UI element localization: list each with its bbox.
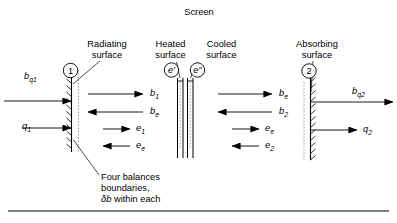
flow-label-bq2-sub: q2 — [357, 91, 365, 98]
marker-surface-2: 2 — [302, 66, 316, 77]
marker-surface-1: 1 — [64, 66, 78, 77]
flow-label-left-1: be — [150, 106, 159, 118]
marker-screen-heated: e′ — [165, 65, 179, 76]
marker-surface-2-text: 2 — [306, 66, 311, 76]
radiating-surface-label: Radiating surface — [76, 39, 138, 60]
flow-label-right-0-sub: e — [284, 93, 288, 100]
cooled-surface-line2: surface — [206, 50, 237, 60]
cooled-surface-line1: Cooled — [207, 39, 236, 49]
flow-label-left-0-sub: 1 — [155, 93, 159, 100]
flow-label-left-2-sub: 1 — [141, 128, 145, 135]
radiating-surface-line1: Radiating — [87, 39, 126, 49]
absorbing-surface-line1: Absorbing — [296, 39, 338, 49]
diagram-canvas — [0, 0, 397, 223]
flow-label-left-0: b1 — [150, 88, 159, 100]
left-gap-arrows — [88, 94, 143, 146]
flow-label-left-3-sub: e — [141, 145, 145, 152]
marker-screen-cooled-text: e″ — [193, 65, 201, 75]
flow-label-q2: q2 — [363, 124, 372, 136]
absorbing-surface-line2: surface — [302, 50, 333, 60]
flow-label-right-1: b2 — [279, 106, 288, 118]
flow-label-right-2: ee — [265, 123, 274, 135]
inlet-outlet-arrows — [4, 101, 393, 130]
balances-caption-line3-suffix: within each — [111, 194, 160, 204]
flow-label-q1-sub: 1 — [27, 126, 31, 133]
flow-label-bq2: bq2 — [352, 86, 365, 98]
screen-label-text: Screen — [184, 7, 213, 17]
heated-surface-label: Heated surface — [143, 39, 198, 60]
radiating-surface-wall — [67, 66, 79, 152]
flow-label-right-3: e2 — [265, 140, 274, 152]
balances-caption: Four balances boundaries, δb within each — [101, 172, 160, 206]
balances-caption-line3-prefix: δb — [101, 194, 111, 204]
cooled-surface-label: Cooled surface — [194, 39, 249, 60]
screen-label: Screen — [173, 7, 225, 18]
heated-surface-line1: Heated — [156, 39, 186, 49]
flow-label-q1: q1 — [22, 121, 31, 133]
heated-surface-line2: surface — [155, 50, 186, 60]
flow-label-right-1-sub: 2 — [284, 111, 288, 118]
marker-screen-cooled: e″ — [191, 65, 205, 76]
radiating-surface-line2: surface — [92, 50, 123, 60]
marker-screen-heated-text: e′ — [168, 65, 175, 75]
flow-label-bq1-sub: q1 — [29, 76, 37, 83]
absorbing-surface-wall — [304, 78, 316, 161]
flow-label-q2-sub: 2 — [368, 129, 372, 136]
flow-label-left-3: ee — [136, 140, 145, 152]
flow-label-left-1-sub: e — [155, 111, 159, 118]
flow-label-left-2: e1 — [136, 123, 145, 135]
balances-caption-line2: boundaries, — [101, 183, 150, 193]
screen-plates — [178, 78, 194, 158]
absorbing-surface-label: Absorbing surface — [283, 39, 351, 60]
flow-label-right-0: be — [279, 88, 288, 100]
flow-label-right-3-sub: 2 — [270, 145, 274, 152]
right-gap-arrows — [218, 94, 272, 146]
radiation-balance-diagram: Radiating surface Screen Heated surface … — [0, 0, 397, 223]
balances-caption-line1: Four balances — [101, 172, 160, 182]
flow-label-right-2-sub: e — [270, 128, 274, 135]
marker-surface-1-text: 1 — [68, 66, 73, 76]
flow-label-bq1: bq1 — [24, 71, 37, 83]
